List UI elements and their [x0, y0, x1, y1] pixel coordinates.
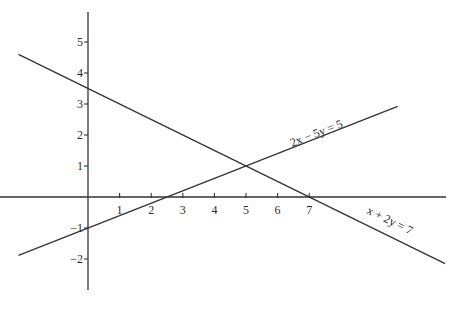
axes: [0, 12, 446, 290]
x-tick-label: 3: [180, 203, 186, 217]
y-tick-label: −2: [70, 252, 83, 266]
x-tick-label: 7: [306, 203, 312, 217]
line-labels: 2x − 5y = 5 x + 2y = 7: [288, 116, 415, 237]
x-tick-label: 2: [148, 203, 154, 217]
y-tick-label: 1: [77, 159, 83, 173]
label-2x-minus-5y: 2x − 5y = 5: [288, 116, 345, 149]
coordinate-plot: 123456754321−1−2 2x − 5y = 5 x + 2y = 7: [0, 0, 464, 310]
y-tick-label: 2: [77, 128, 83, 142]
ticks: 123456754321−1−2: [70, 35, 312, 266]
y-tick-label: 4: [77, 66, 83, 80]
y-tick-label: 5: [77, 35, 83, 49]
x-tick-label: 4: [211, 203, 217, 217]
y-tick-label: 3: [77, 97, 83, 111]
label-x-plus-2y: x + 2y = 7: [365, 203, 416, 237]
x-tick-label: 5: [243, 203, 249, 217]
x-tick-label: 6: [275, 203, 281, 217]
